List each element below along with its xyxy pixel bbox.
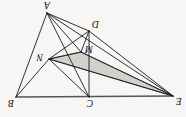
- vertex-label-e: E: [176, 96, 183, 106]
- shaded-faces-group: [49, 52, 173, 96]
- vertex-label-n: N: [36, 52, 44, 62]
- shaded-face-emn: [49, 52, 173, 96]
- vertex-label-b: B: [8, 98, 14, 108]
- figure-rotation-wrapper: E C B N M D A: [0, 0, 186, 117]
- edge-e-a: [47, 13, 173, 96]
- vertex-label-m: M: [84, 44, 94, 54]
- vertex-label-d: D: [92, 19, 100, 29]
- vertex-label-a: A: [44, 0, 51, 10]
- vertex-label-c: C: [86, 98, 93, 108]
- vertex-labels-group: E C B N M D A: [8, 0, 183, 108]
- geometry-figure-canvas: E C B N M D A: [0, 0, 186, 117]
- edge-d-a: [47, 13, 89, 31]
- edge-b-n: [16, 59, 49, 97]
- geometry-diagram: E C B N M D A: [0, 0, 186, 117]
- edge-e-m: [81, 52, 173, 96]
- edge-e-n: [49, 59, 173, 96]
- edge-e-b: [16, 96, 173, 97]
